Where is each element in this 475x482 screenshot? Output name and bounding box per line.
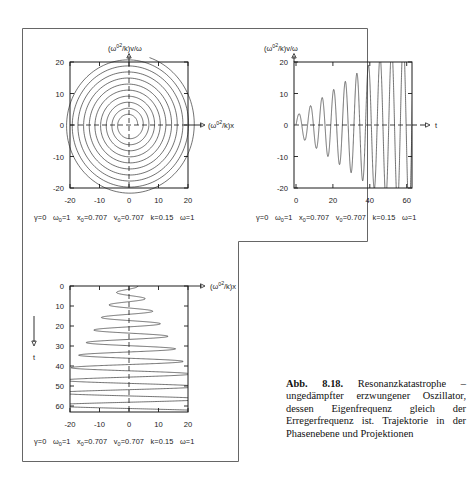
vt-parameter-line: γ=0 ω0=1 x0=0.707 v0=0.707 k=0.15 ω=1 <box>256 213 416 223</box>
phase-xlabel: (ω02/k)x <box>208 119 234 130</box>
xt-ylabel: t <box>33 353 35 362</box>
velocity-time-plot: (ω02/k)v/ω t 20 10 0 -10 -20 0 20 40 <box>248 34 468 226</box>
xt-xtick-m20: -20 <box>65 420 76 429</box>
phase-xtick-10: 10 <box>154 196 162 205</box>
phase-ytick-0: 0 <box>60 121 64 130</box>
xt-ytick-0: 0 <box>60 282 64 291</box>
vt-xtick-20: 20 <box>329 196 337 205</box>
vt-ytick-10: 10 <box>280 90 288 99</box>
vt-ytick-m10: -10 <box>277 153 288 162</box>
phase-parameter-line: γ=0 ω0=1 x0=0.707 v0=0.707 k=0.15 ω=1 <box>34 213 194 223</box>
caption-label: Abb. 8.18. <box>286 378 343 389</box>
figure-caption: Abb. 8.18. Resonanzkatastrophe – ungedäm… <box>286 378 466 440</box>
phase-xtick-m10: -10 <box>94 196 105 205</box>
phase-xtick-0: 0 <box>127 196 131 205</box>
phase-plane-plot: (ω02/k)v/ω (ω02/k)x <box>30 34 245 226</box>
vt-xtick-0: 0 <box>294 196 298 205</box>
vt-ytick-m20: -20 <box>277 184 288 193</box>
vt-ytick-0: 0 <box>284 121 288 130</box>
phase-ytick-20: 20 <box>56 58 64 67</box>
panel-phase-plane: (ω02/k)v/ω (ω02/k)x <box>30 34 245 226</box>
vt-xtick-60: 60 <box>402 196 410 205</box>
phase-ytick-m20: -20 <box>53 184 64 193</box>
xt-xtick-10: 10 <box>154 420 162 429</box>
panel-velocity-time: (ω02/k)v/ω t 20 10 0 -10 -20 0 20 40 <box>248 34 468 226</box>
xt-ytick-60: 60 <box>56 402 64 411</box>
phase-xtick-20: 20 <box>184 196 192 205</box>
vt-xtick-40: 40 <box>366 196 374 205</box>
xt-xtick-m10: -10 <box>94 420 105 429</box>
panel-displacement-time: (ω02/k)x t 0 10 20 30 40 50 60 -20 <box>24 258 249 458</box>
xt-ytick-40: 40 <box>56 362 64 371</box>
xt-wave-curve <box>48 286 213 412</box>
xt-parameter-line: γ=0 ω0=1 x0=0.707 v0=0.707 k=0.15 ω=1 <box>34 437 194 447</box>
phase-xtick-m20: -20 <box>65 196 76 205</box>
vt-ytick-20: 20 <box>280 58 288 67</box>
vt-x-arrowhead <box>426 123 431 127</box>
vt-ylabel: (ω02/k)v/ω <box>264 42 298 53</box>
xt-xtick-20: 20 <box>184 420 192 429</box>
xt-xtick-0: 0 <box>127 420 131 429</box>
xt-xlabel: (ω02/k)x <box>210 280 236 291</box>
phase-ytick-10: 10 <box>56 90 64 99</box>
xt-ytick-30: 30 <box>56 342 64 351</box>
vt-wave-curve <box>296 40 414 213</box>
xt-ytick-20: 20 <box>56 322 64 331</box>
displacement-time-plot: (ω02/k)x t 0 10 20 30 40 50 60 -20 <box>24 258 249 458</box>
phase-ylabel: (ω02/k)v/ω <box>108 42 142 53</box>
vt-xlabel: t <box>435 121 437 130</box>
phase-ytick-m10: -10 <box>53 153 64 162</box>
xt-ytick-10: 10 <box>56 302 64 311</box>
xt-ytick-50: 50 <box>56 382 64 391</box>
